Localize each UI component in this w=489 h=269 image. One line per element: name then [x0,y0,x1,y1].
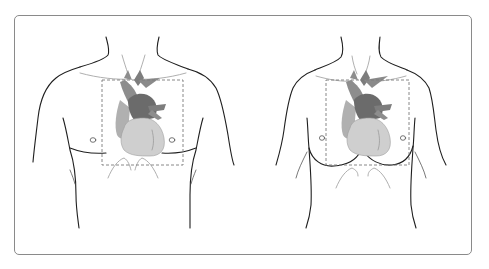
illustration [0,0,489,269]
female-heart [342,70,392,156]
male-heart [116,70,166,156]
